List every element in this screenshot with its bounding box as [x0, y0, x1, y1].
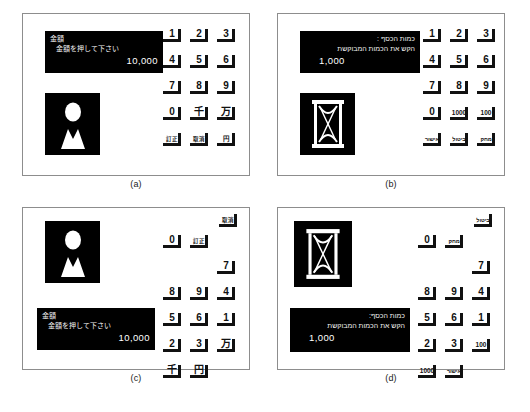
key-b-0[interactable]: 1	[423, 29, 441, 42]
key-c-10[interactable]: 2	[163, 339, 181, 352]
key-b-3[interactable]: 4	[423, 55, 441, 68]
key-c-5[interactable]: 9	[190, 287, 208, 300]
key-bracket-icon	[450, 107, 468, 120]
key-b-12[interactable]: אישור	[423, 133, 441, 146]
key-d-1[interactable]: מחק	[445, 235, 463, 248]
key-a-12[interactable]: 訂正	[163, 133, 181, 146]
key-a-3[interactable]: 4	[163, 55, 181, 68]
key-b-5[interactable]: 6	[477, 55, 495, 68]
key-bracket-icon	[423, 29, 441, 42]
key-a-14[interactable]: 円	[217, 133, 235, 146]
key-bracket-icon	[217, 81, 235, 94]
panel-a-icon-box	[45, 93, 100, 155]
panel-c-display-title: 金額	[42, 311, 150, 321]
key-d-6[interactable]: 4	[472, 287, 490, 300]
person-bust-icon	[55, 227, 91, 277]
key-a-9[interactable]: 0	[163, 107, 181, 120]
key-b-1[interactable]: 2	[450, 29, 468, 42]
key-a-6[interactable]: 7	[163, 81, 181, 94]
key-bracket-icon	[423, 133, 441, 146]
key-bracket-icon	[190, 29, 208, 42]
key-bracket-icon	[445, 339, 463, 352]
key-a-5[interactable]: 6	[217, 55, 235, 68]
key-bracket-icon	[163, 133, 181, 146]
key-c-7[interactable]: 5	[163, 313, 181, 326]
panel-a-frame: 金額 金額を押して下さい 10,000 1234567890千万訂正取消円	[22, 13, 250, 176]
key-a-8[interactable]: 9	[217, 81, 235, 94]
key-d-9[interactable]: 1	[472, 313, 490, 326]
key-bracket-icon	[450, 133, 468, 146]
key-d-12[interactable]: 100	[472, 339, 490, 352]
key-d-4[interactable]: 8	[418, 287, 436, 300]
key-b-8[interactable]: 9	[477, 81, 495, 94]
key-b-11[interactable]: 100	[477, 107, 495, 120]
key-b-13[interactable]: ביטול	[450, 133, 468, 146]
panel-d-display: כמות הכסף: הקש את הכמות המבוקשת 1,000	[290, 308, 410, 352]
panel-d-keypad[interactable]: 0מחק7894561231001000אישור	[418, 235, 498, 363]
key-bracket-icon	[217, 339, 235, 352]
panel-b-icon-box	[300, 93, 355, 155]
key-b-6[interactable]: 7	[423, 81, 441, 94]
key-b-7[interactable]: 8	[450, 81, 468, 94]
key-d-11[interactable]: 3	[445, 339, 463, 352]
key-b-9[interactable]: 0	[423, 107, 441, 120]
panel-b-display-amount: 1,000	[305, 54, 415, 68]
key-bracket-icon	[163, 107, 181, 120]
key-c-11[interactable]: 3	[190, 339, 208, 352]
panel-c-display: 金額 金額を押して下さい 10,000	[37, 308, 155, 350]
key-d-5[interactable]: 9	[445, 287, 463, 300]
key-b-2[interactable]: 3	[477, 29, 495, 42]
key-bracket-icon	[423, 81, 441, 94]
panel-a-keypad[interactable]: 1234567890千万訂正取消円	[163, 29, 243, 164]
key-c-3[interactable]: 7	[217, 261, 235, 274]
panel-b-display-prompt: הקש את הכמות המבוקשת	[305, 44, 415, 54]
key-d-10[interactable]: 2	[418, 339, 436, 352]
panel-c-keypad[interactable]: 0訂正789456123万千円	[163, 235, 243, 363]
key-bracket-icon	[477, 29, 495, 42]
key-b-14[interactable]: מחק	[477, 133, 495, 146]
panel-a: 金額 金額を押して下さい 10,000 1234567890千万訂正取消円 (a…	[22, 13, 250, 176]
key-d-2[interactable]: ביטול	[474, 214, 492, 227]
key-bracket-icon	[418, 235, 436, 248]
key-bracket-icon	[163, 313, 181, 326]
key-d-8[interactable]: 6	[445, 313, 463, 326]
panel-d-display-title: כמות הכסף:	[295, 311, 405, 321]
key-c-12[interactable]: 万	[217, 339, 235, 352]
key-b-4[interactable]: 5	[450, 55, 468, 68]
key-bracket-icon	[450, 55, 468, 68]
panel-c-display-prompt: 金額を押して下さい	[42, 321, 150, 331]
key-c-0[interactable]: 0	[163, 235, 181, 248]
panel-d-display-amount: 1,000	[295, 331, 405, 345]
panel-b-keypad[interactable]: 12345678901000100אישורביטולמחק	[423, 29, 503, 164]
key-c-9[interactable]: 1	[217, 313, 235, 326]
key-c-8[interactable]: 6	[190, 313, 208, 326]
hourglass-icon	[302, 227, 344, 281]
key-bracket-icon	[163, 55, 181, 68]
key-a-4[interactable]: 5	[190, 55, 208, 68]
key-bracket-icon	[190, 55, 208, 68]
key-d-7[interactable]: 5	[418, 313, 436, 326]
key-bracket-icon	[423, 107, 441, 120]
key-b-10[interactable]: 1000	[450, 107, 468, 120]
key-bracket-icon	[217, 133, 235, 146]
key-a-13[interactable]: 取消	[190, 133, 208, 146]
key-a-10[interactable]: 千	[190, 107, 208, 120]
key-a-1[interactable]: 2	[190, 29, 208, 42]
hourglass-icon	[308, 98, 348, 150]
key-c-6[interactable]: 4	[217, 287, 235, 300]
key-d-3[interactable]: 7	[472, 261, 490, 274]
panel-a-display-amount: 10,000	[50, 54, 158, 68]
panel-c: 金額 金額を押して下さい 10,000 取消 0訂正789456123万千円 (…	[22, 207, 250, 370]
panel-c-frame: 金額 金額を押して下さい 10,000 取消 0訂正789456123万千円	[22, 207, 250, 370]
key-d-0[interactable]: 0	[418, 235, 436, 248]
key-c-1[interactable]: 訂正	[190, 235, 208, 248]
panel-a-display-prompt: 金額を押して下さい	[50, 44, 158, 54]
panel-d-display-prompt: הקש את הכמות המבוקשת	[295, 321, 405, 331]
key-a-0[interactable]: 1	[163, 29, 181, 42]
key-a-7[interactable]: 8	[190, 81, 208, 94]
key-a-2[interactable]: 3	[217, 29, 235, 42]
key-bracket-icon	[477, 133, 495, 146]
key-c-2[interactable]: 取消	[219, 214, 237, 227]
key-c-4[interactable]: 8	[163, 287, 181, 300]
key-a-11[interactable]: 万	[217, 107, 235, 120]
